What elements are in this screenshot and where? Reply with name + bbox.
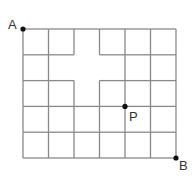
point-p-label: P xyxy=(129,110,138,123)
point-b-marker xyxy=(173,155,178,160)
point-a-label: A xyxy=(8,18,17,31)
point-b-label: B xyxy=(179,159,188,172)
street-grid xyxy=(0,0,193,180)
point-p-marker xyxy=(122,104,127,109)
point-a-marker xyxy=(20,26,25,31)
